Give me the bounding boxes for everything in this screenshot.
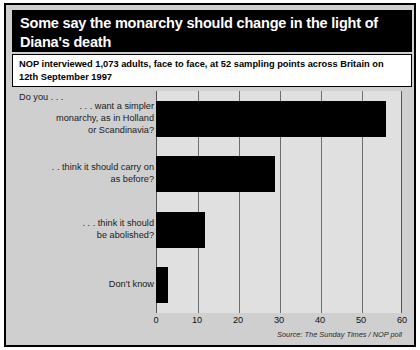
bar xyxy=(156,212,205,248)
subtitle-text: NOP interviewed 1,073 adults, face to fa… xyxy=(19,58,405,84)
category-label: . . . want a simplermonarchy, as in Holl… xyxy=(4,101,154,136)
x-tick-label: 30 xyxy=(274,315,284,325)
x-tick-label: 60 xyxy=(397,315,407,325)
category-label-line: . . . think it should xyxy=(4,218,154,230)
bar xyxy=(156,267,168,303)
category-label-line: as before? xyxy=(4,174,154,186)
category-label-line: be abolished? xyxy=(4,230,154,242)
category-label-line: or Scandinavia? xyxy=(4,125,154,137)
subtitle-box: NOP interviewed 1,073 adults, face to fa… xyxy=(12,54,412,87)
category-label-line: Don't know xyxy=(4,279,154,291)
bar xyxy=(156,101,386,137)
category-label-line: monarchy, as in Holland xyxy=(4,113,154,125)
page-title: Some say the monarchy should change in t… xyxy=(20,14,404,52)
category-label: . . think it should carry onas before? xyxy=(4,162,154,186)
category-label: . . . think it shouldbe abolished? xyxy=(4,218,154,242)
x-tick-label: 10 xyxy=(192,315,202,325)
category-label-line: . . think it should carry on xyxy=(4,162,154,174)
x-tick-label: 0 xyxy=(153,315,158,325)
chart-figure: Some say the monarchy should change in t… xyxy=(4,3,416,347)
source-note: Source: The Sunday Times / NOP poll xyxy=(277,330,402,339)
category-label-line: . . . want a simpler xyxy=(4,101,154,113)
plot-area: Do you . . . . . . want a simplermonarch… xyxy=(12,91,412,343)
title-banner: Some say the monarchy should change in t… xyxy=(12,10,412,52)
category-label: Don't know xyxy=(4,279,154,291)
x-tick-label: 40 xyxy=(315,315,325,325)
bar xyxy=(156,156,275,192)
x-tick-label: 20 xyxy=(233,315,243,325)
x-tick-label: 50 xyxy=(356,315,366,325)
